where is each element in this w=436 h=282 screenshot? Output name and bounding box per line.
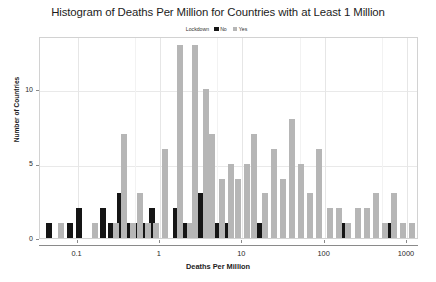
histogram-bar [316, 149, 322, 238]
histogram-bar [67, 223, 73, 238]
gridline-vertical [242, 38, 243, 238]
histogram-bar [262, 193, 268, 238]
y-axis-tick-mark [36, 90, 39, 91]
legend-entry-yes: Yes [233, 26, 247, 32]
x-axis-tick-label: 100 [304, 249, 344, 258]
histogram-bar [280, 179, 286, 238]
page-title: Histogram of Deaths Per Million for Coun… [0, 6, 436, 18]
legend-swatch-yes-icon [233, 27, 238, 32]
x-axis-tick-mark [406, 240, 407, 243]
histogram-bar [145, 223, 151, 238]
histogram-bar [364, 208, 370, 238]
y-axis-tick-label: 10 [7, 86, 33, 93]
histogram-bar [289, 119, 295, 238]
x-axis-tick-label: 1000 [386, 249, 426, 258]
chart-legend: Lockdown No Yes [0, 26, 436, 32]
histogram-bar [400, 223, 406, 238]
x-axis-spine [39, 245, 418, 246]
histogram-bar [209, 134, 215, 238]
x-axis-tick-label: 1 [139, 249, 179, 258]
x-axis-tick-mark [77, 240, 78, 243]
legend-swatch-no-icon [214, 27, 219, 32]
histogram-bar [409, 223, 415, 238]
y-axis-tick-label: 5 [7, 160, 33, 167]
y-axis-tick-mark [36, 239, 39, 240]
histogram-figure: Histogram of Deaths Per Million for Coun… [0, 0, 436, 282]
histogram-bar [244, 164, 250, 238]
histogram-bar [235, 179, 241, 238]
legend-label-no: No [220, 26, 227, 32]
legend-label-yes: Yes [239, 26, 247, 32]
y-axis-label: Number of Countries [13, 65, 20, 155]
histogram-bar [271, 149, 277, 238]
histogram-bar [130, 223, 136, 238]
legend-entry-no: No [214, 26, 227, 32]
plot-area [40, 38, 417, 238]
histogram-bar [192, 45, 198, 238]
histogram-bar [113, 223, 119, 238]
histogram-bar [307, 193, 313, 238]
gridline-horizontal [40, 91, 417, 92]
histogram-bar [219, 179, 225, 238]
histogram-bar [137, 193, 143, 238]
histogram-bar [382, 223, 388, 238]
x-axis-tick-label: 0.1 [57, 249, 97, 258]
plot-frame [39, 37, 418, 239]
histogram-bar [177, 45, 183, 238]
x-axis-tick-label: 10 [221, 249, 261, 258]
y-axis-tick-label: 0 [7, 235, 33, 242]
gridline-vertical [160, 38, 161, 238]
histogram-bar [153, 223, 159, 238]
histogram-bar [298, 164, 304, 238]
histogram-bar [121, 134, 127, 238]
histogram-bar [92, 223, 98, 238]
histogram-bar [58, 223, 64, 238]
legend-title: Lockdown [186, 26, 209, 32]
x-axis-tick-mark [324, 240, 325, 243]
histogram-bar [162, 149, 168, 238]
histogram-bar [355, 208, 361, 238]
histogram-bar [100, 208, 106, 238]
histogram-bar [203, 89, 209, 238]
histogram-bar [373, 193, 379, 238]
histogram-bar [46, 223, 52, 238]
histogram-bar [345, 223, 351, 238]
gridline-vertical [325, 38, 326, 238]
gridline-vertical [382, 38, 383, 238]
x-axis-tick-mark [159, 240, 160, 243]
histogram-bar [327, 208, 333, 238]
histogram-bar [228, 164, 234, 238]
y-axis-tick-mark [36, 165, 39, 166]
gridline-vertical [407, 38, 408, 238]
histogram-bar [251, 134, 257, 238]
x-axis-label: Deaths Per Million [0, 262, 436, 271]
gridline-vertical [135, 38, 136, 238]
x-axis-tick-mark [241, 240, 242, 243]
histogram-bar [336, 208, 342, 238]
histogram-bar [391, 193, 397, 238]
histogram-bar [76, 208, 82, 238]
